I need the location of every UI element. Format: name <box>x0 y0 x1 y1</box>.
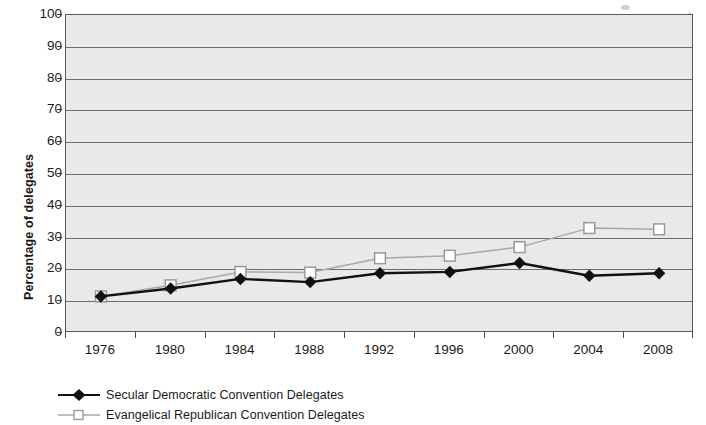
y-tick-mark <box>57 141 62 142</box>
x-tick-label: 2000 <box>504 342 534 357</box>
y-tick-mark <box>57 237 62 238</box>
x-tick-label: 2004 <box>573 342 603 357</box>
data-point-marker <box>444 250 455 261</box>
open-square-marker-icon <box>56 407 102 423</box>
series-evangelical-republican <box>95 223 664 302</box>
y-tick-mark <box>57 14 62 15</box>
data-point-marker <box>584 223 595 234</box>
y-tick-label: 70 <box>6 103 62 117</box>
filled-diamond-marker-icon <box>56 387 102 403</box>
y-tick-label: 30 <box>6 230 62 244</box>
x-tick-label: 1976 <box>85 342 115 357</box>
y-tick-label: 40 <box>6 198 62 212</box>
x-tick-mark <box>414 332 415 338</box>
x-tick-mark <box>484 332 485 338</box>
y-tick-label: 10 <box>6 293 62 307</box>
series-layer <box>66 15 692 331</box>
legend-label-secular-democratic: Secular Democratic Convention Delegates <box>102 388 343 402</box>
data-point-marker <box>654 224 665 235</box>
x-tick-mark <box>623 332 624 338</box>
x-tick-mark <box>553 332 554 338</box>
y-tick-mark <box>57 300 62 301</box>
y-tick-label: 0 <box>6 325 62 339</box>
chart-legend: Secular Democratic Convention Delegates … <box>56 386 365 423</box>
legend-label-evangelical-republican: Evangelical Republican Convention Delega… <box>102 408 365 422</box>
y-tick-label: 100 <box>6 7 62 21</box>
y-tick-mark <box>57 173 62 174</box>
y-tick-mark <box>57 205 62 206</box>
y-tick-label: 60 <box>6 134 62 148</box>
y-tick-label: 90 <box>6 39 62 53</box>
y-tick-mark <box>57 268 62 269</box>
y-tick-mark <box>57 78 62 79</box>
y-tick-label: 80 <box>6 71 62 85</box>
data-point-marker <box>514 242 525 253</box>
x-tick-mark <box>344 332 345 338</box>
y-tick-mark <box>57 109 62 110</box>
data-point-marker <box>583 270 595 282</box>
x-tick-label: 2008 <box>643 342 673 357</box>
x-tick-label: 1984 <box>224 342 254 357</box>
y-tick-label: 50 <box>6 166 62 180</box>
y-tick-mark <box>57 46 62 47</box>
x-tick-label: 1988 <box>294 342 324 357</box>
data-point-marker <box>653 267 665 279</box>
y-tick-mark <box>57 332 62 333</box>
data-point-marker <box>375 253 386 264</box>
x-tick-mark <box>692 332 693 338</box>
x-tick-label: 1996 <box>434 342 464 357</box>
data-point-marker <box>374 267 386 279</box>
x-tick-mark <box>274 332 275 338</box>
x-tick-mark <box>205 332 206 338</box>
x-tick-mark <box>135 332 136 338</box>
scan-artifact-speck <box>621 5 630 10</box>
x-tick-mark <box>65 332 66 338</box>
data-point-marker <box>513 257 525 269</box>
plot-area <box>65 14 693 332</box>
x-axis: 197619801984198819921996200020042008 <box>65 332 693 372</box>
data-point-marker <box>444 266 456 278</box>
legend-item-secular-democratic: Secular Democratic Convention Delegates <box>56 386 365 403</box>
x-tick-label: 1992 <box>364 342 394 357</box>
legend-item-evangelical-republican: Evangelical Republican Convention Delega… <box>56 406 365 423</box>
line-chart: Percentage of delegates 0102030405060708… <box>0 0 706 425</box>
y-axis: 0102030405060708090100 <box>0 14 62 332</box>
y-tick-label: 20 <box>6 262 62 276</box>
x-tick-label: 1980 <box>155 342 185 357</box>
